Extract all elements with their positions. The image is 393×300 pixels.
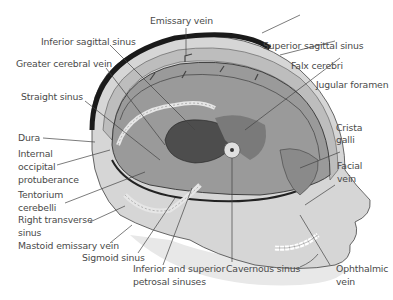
label-tentorium-1: Tentorium: [18, 189, 63, 201]
label-emissary-vein: Emissary vein: [150, 15, 213, 27]
label-facial-vein-2: vein: [337, 173, 356, 185]
label-superior-sagittal-sinus: Superior sagittal sinus: [263, 40, 363, 52]
label-inferior-sagittal-sinus: Inferior sagittal sinus: [41, 36, 136, 48]
label-internal-occipital-1: Internal: [18, 148, 53, 160]
label-ophthalmic-vein-2: vein: [336, 276, 355, 288]
anatomy-figure: Emissary vein Inferior sagittal sinus Su…: [0, 0, 393, 300]
label-petrosal-sinuses-2: petrosal sinuses: [133, 276, 206, 288]
label-crista-galli-2: galli: [336, 134, 355, 146]
label-ophthalmic-vein-1: Ophthalmic: [336, 263, 388, 275]
label-crista-galli-1: Crista: [336, 122, 362, 134]
label-sigmoid-sinus: Sigmoid sinus: [82, 252, 145, 264]
label-internal-occipital-2: occipital: [18, 161, 56, 173]
label-straight-sinus: Straight sinus: [21, 91, 83, 103]
label-dura: Dura: [18, 132, 40, 144]
label-tentorium-2: cerebelli: [18, 202, 56, 214]
label-internal-occipital-3: protuberance: [18, 174, 79, 186]
label-right-transverse-1: Right transverse: [18, 214, 93, 226]
label-falx-cerebri: Falx cerebri: [291, 60, 343, 72]
label-jugular-foramen: Jugular foramen: [316, 79, 388, 91]
label-greater-cerebral-vein: Greater cerebral vein: [16, 58, 112, 70]
label-petrosal-sinuses-1: Inferior and superior: [133, 263, 225, 275]
label-right-transverse-2: sinus: [18, 227, 41, 239]
label-facial-vein-1: Facial: [337, 160, 362, 172]
label-cavernous-sinus: Cavernous sinus: [226, 263, 300, 275]
label-mastoid-emissary-vein: Mastoid emissary vein: [18, 240, 119, 252]
